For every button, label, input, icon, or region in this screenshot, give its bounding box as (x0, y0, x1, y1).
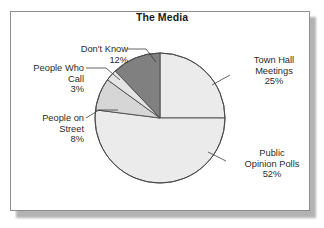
pie-label-people-who-call: People Who Call 3% (8, 63, 84, 95)
pie-label-town-hall-meetings-line2: Meetings (232, 66, 316, 77)
pie-label-town-hall-meetings-line1: Town Hall (254, 55, 294, 65)
pie-label-people-who-call-line1: People Who (33, 63, 84, 73)
pie-slice-public-opinion-polls[interactable] (95, 110, 225, 183)
leader-line-town-hall-meetings (212, 75, 230, 85)
pie-label-town-hall-meetings: Town Hall Meetings 25% (232, 55, 316, 87)
pie-label-people-on-street-line2: Street (6, 124, 84, 135)
pie-label-people-on-street-line1: People on (42, 113, 84, 123)
pie-label-public-opinion-polls-line1: Public (259, 148, 284, 158)
pie-label-public-opinion-polls-percent: 52% (228, 169, 316, 180)
pie-label-people-on-street: People on Street 8% (6, 113, 84, 145)
pie-slice-town-hall-meetings[interactable] (160, 53, 225, 118)
pie-chart-screenshot: The Media Don't Know 12% People Who Call… (0, 0, 324, 228)
pie-label-public-opinion-polls-line2: Opinion Polls (228, 159, 316, 170)
pie-label-dont-know-text: Don't Know (81, 44, 128, 54)
pie-label-public-opinion-polls: Public Opinion Polls 52% (228, 148, 316, 180)
pie-label-dont-know: Don't Know 12% (56, 44, 128, 65)
pie-label-people-on-street-percent: 8% (6, 134, 84, 145)
pie-label-people-who-call-percent: 3% (8, 84, 84, 95)
pie-label-town-hall-meetings-percent: 25% (232, 76, 316, 87)
pie-label-people-who-call-line2: Call (8, 74, 84, 85)
